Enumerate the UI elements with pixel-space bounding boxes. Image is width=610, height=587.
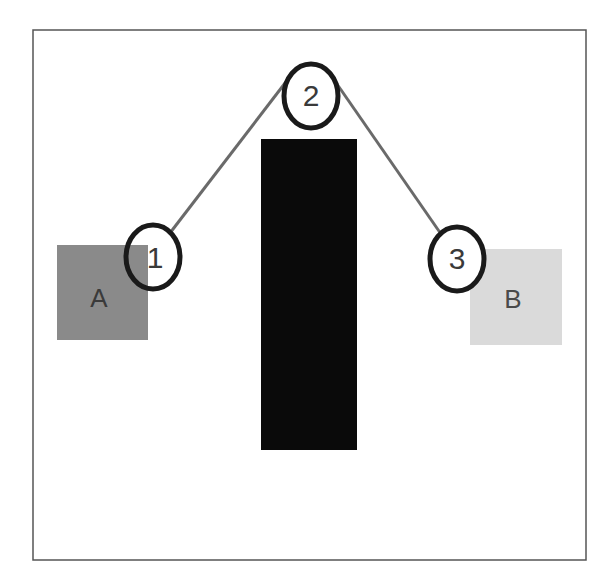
node-1-label: 1 bbox=[147, 241, 164, 274]
path-diagram: A B 1 2 3 bbox=[0, 0, 610, 587]
node-3: 3 bbox=[430, 227, 484, 291]
obstacle-block bbox=[261, 139, 357, 450]
box-a: A bbox=[57, 245, 148, 340]
box-b-label: B bbox=[504, 284, 521, 314]
node-3-label: 3 bbox=[449, 242, 466, 275]
node-2: 2 bbox=[284, 64, 338, 128]
box-a-label: A bbox=[90, 283, 108, 313]
node-2-label: 2 bbox=[303, 79, 320, 112]
